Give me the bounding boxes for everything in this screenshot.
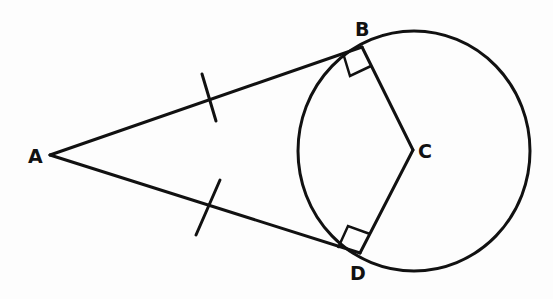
label-c: C [418,140,432,162]
tangent-diagram: A B C D [0,0,553,299]
radius-dc [360,150,413,253]
label-d: D [350,262,366,284]
radius-bc [362,47,413,150]
segment-ad [50,155,360,253]
segment-ab [50,47,362,155]
label-a: A [28,145,43,167]
label-b: B [355,18,369,40]
